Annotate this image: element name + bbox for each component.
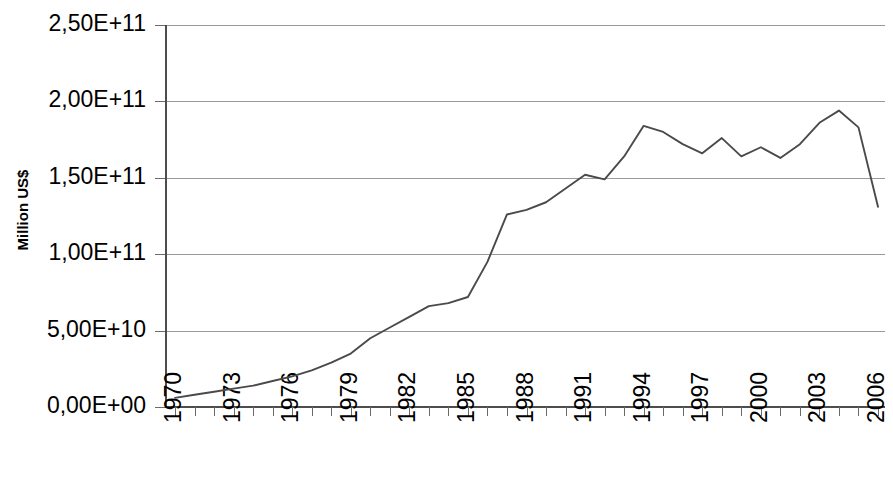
y-axis-tick-label: 2,00E+11	[49, 86, 146, 112]
x-axis-tick-label: 1973	[219, 372, 245, 423]
x-axis-tick-label: 1985	[453, 372, 479, 423]
y-axis-tick-label: 5,00E+10	[47, 316, 146, 342]
x-axis-tick-label: 1997	[687, 372, 713, 423]
y-axis-tick-label: 1,50E+11	[49, 163, 146, 189]
line-chart: 2,50E+112,00E+111,50E+111,00E+115,00E+10…	[0, 0, 893, 487]
x-axis-tick-label: 1994	[629, 372, 655, 423]
y-axis-title: Million US$	[14, 169, 31, 250]
x-axis-tick-label: 1991	[570, 372, 596, 423]
x-axis-tick-label: 1979	[336, 372, 362, 423]
chart-page: 2,50E+112,00E+111,50E+111,00E+115,00E+10…	[0, 0, 893, 487]
x-axis-tick-label: 1982	[394, 372, 420, 423]
y-axis-tick-label: 1,00E+11	[49, 239, 146, 265]
x-axis-tick-label: 2000	[746, 372, 772, 423]
x-axis-tick-label: 1988	[512, 372, 538, 423]
y-axis-tick-label: 0,00E+00	[47, 392, 146, 418]
x-axis-tick-label: 2003	[804, 372, 830, 423]
x-axis-tick-label: 2006	[863, 372, 889, 423]
y-axis-tick-label: 2,50E+11	[49, 10, 146, 36]
